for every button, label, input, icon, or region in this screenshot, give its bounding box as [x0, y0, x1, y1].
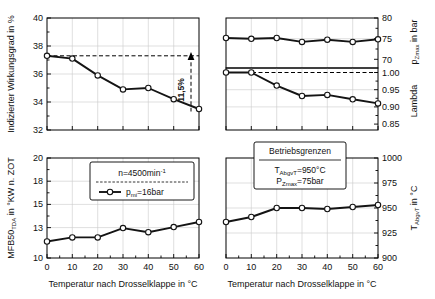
- y-tickmarks-right-lower: [374, 73, 378, 125]
- panel-mfb50: 10 13 15 18 20: [0, 150, 218, 299]
- x-tick-label: 0: [44, 262, 49, 272]
- chart-mfb50: 10 13 15 18 20: [0, 150, 218, 299]
- y-axis-title-lambda: Lambda: [409, 85, 419, 118]
- x-tick-label: 40: [322, 262, 332, 272]
- y-tick-label: 950: [382, 203, 397, 213]
- chart-exhaust-temperature: 1000 975 950 925 900: [218, 150, 435, 299]
- y-tick-labels: 32 34 36 38 40: [33, 13, 43, 135]
- y-tick-label: 38: [33, 41, 43, 51]
- x-tick-label: 10: [67, 262, 77, 272]
- x-tickmarks: [47, 254, 199, 258]
- gridlines: [47, 18, 199, 130]
- y-tick-labels: 1000 975 950 925 900: [382, 153, 402, 263]
- legend-speed-label: n=4500min-1: [118, 168, 166, 178]
- x-tick-label: 60: [194, 262, 204, 272]
- x-tick-label: 50: [348, 262, 358, 272]
- y-tick-label: 80: [382, 13, 392, 23]
- x-axis-title: Temperatur nach Drosselklappe in °C: [48, 279, 198, 289]
- y-tick-label: 13: [33, 223, 43, 233]
- y-axis-title: TAbgvT in °C: [409, 185, 420, 230]
- x-axis-title: Temperatur nach Drosselklappe in °C: [227, 279, 377, 289]
- plot-area-indicated-efficiency: 32 34 36 38 40: [33, 13, 202, 135]
- y-tick-label: 32: [33, 125, 43, 135]
- chart-indicated-efficiency: 32 34 36 38 40: [0, 0, 218, 150]
- legend-box: n=4500min-1 pmi=16bar: [90, 162, 194, 200]
- y-tick-label: 75: [382, 34, 392, 44]
- y-axis-title: Indizierter Wirkungsgrad in %: [6, 15, 16, 133]
- y-tickmarks: [47, 18, 51, 130]
- x-tick-label: 50: [169, 262, 179, 272]
- x-tickmarks: [47, 126, 199, 130]
- panel-exhaust-temperature: 1000 975 950 925 900: [218, 150, 435, 299]
- y-tick-label: 0.95: [382, 85, 400, 95]
- legend-marker-swatch: [107, 189, 112, 194]
- plot-area-peak-pressure: 80 75 70: [223, 13, 392, 68]
- y-tick-label: 20: [33, 153, 43, 163]
- x-tick-label: 40: [143, 262, 153, 272]
- x-tick-label: 10: [246, 262, 256, 272]
- panel-indicated-efficiency: 32 34 36 38 40: [0, 0, 218, 150]
- x-tick-labels: 0 10 20 30 40 50 60: [44, 262, 204, 272]
- panel-pressure-lambda: 80 75 70: [218, 0, 435, 150]
- efficiency-drop-annotation: 11,5%: [176, 78, 186, 102]
- y-tick-label: 70: [382, 55, 392, 65]
- y-tick-label: 925: [382, 228, 397, 238]
- chart-pressure-lambda: 80 75 70: [218, 0, 435, 150]
- y-tick-label: 36: [33, 69, 43, 79]
- y-tick-label: 1.00: [382, 68, 400, 78]
- y-tick-label: 1000: [382, 153, 402, 163]
- x-tick-label: 30: [297, 262, 307, 272]
- y-tick-label: 40: [33, 13, 43, 23]
- y-tick-labels-lower: 1.00 0.95 0.90 0.85: [382, 68, 400, 130]
- y-tick-labels-upper: 80 75 70: [382, 13, 392, 65]
- multi-panel-figure: 32 34 36 38 40: [0, 0, 435, 299]
- x-tick-label: 0: [223, 262, 228, 272]
- operating-limits-box: Betriebsgrenzen TAbgvT=950°C PZmax=75bar: [254, 142, 346, 189]
- y-tick-label: 18: [33, 176, 43, 186]
- y-tick-label: 15: [33, 199, 43, 209]
- y-tick-labels: 10 13 15 18 20: [33, 153, 43, 263]
- y-tick-label: 900: [382, 253, 397, 263]
- x-tick-label: 60: [373, 262, 383, 272]
- y-tick-label: 0.85: [382, 119, 400, 129]
- x-tick-labels: 0 10 20 30 40 50 60: [223, 262, 383, 272]
- plot-area-mfb50: 10 13 15 18 20: [33, 153, 204, 272]
- y-tick-label: 34: [33, 97, 43, 107]
- x-tickmarks: [226, 126, 378, 130]
- y-axis-title-pressure: pZmax in bar: [409, 19, 420, 64]
- x-tick-label: 20: [93, 262, 103, 272]
- plot-area-lambda: 1.00 0.95 0.90 0.85: [223, 68, 399, 131]
- y-axis-title: MFB50TDA in °KW n. ZOT: [6, 157, 17, 259]
- x-tick-label: 30: [118, 262, 128, 272]
- limits-box-title: Betriebsgrenzen: [269, 146, 331, 156]
- y-tick-label: 10: [33, 253, 43, 263]
- plot-area-exhaust-temperature: 1000 975 950 925 900: [223, 142, 402, 272]
- y-tick-label: 0.90: [382, 102, 400, 112]
- y-tick-label: 975: [382, 178, 397, 188]
- x-tick-label: 20: [272, 262, 282, 272]
- x-tickmarks: [226, 254, 378, 258]
